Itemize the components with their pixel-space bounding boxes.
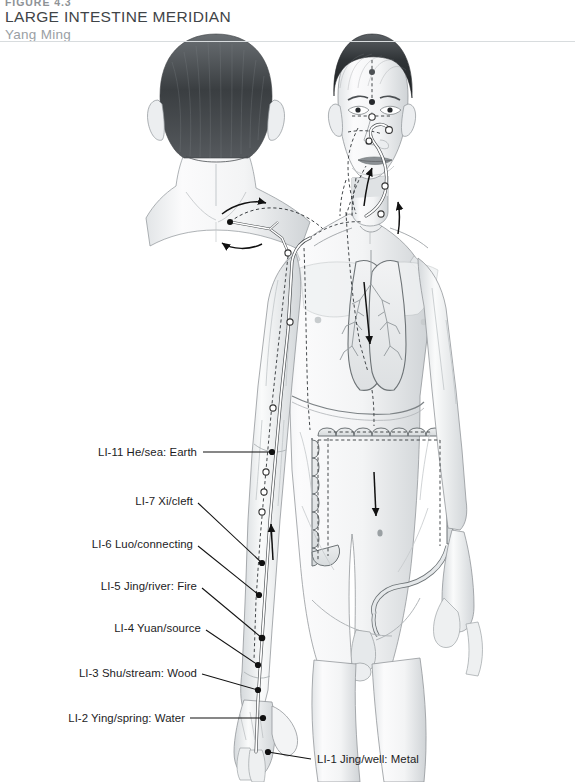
acupoint-midline [369, 114, 375, 120]
callout-label-li-11: LI-11 He/sea: Earth [98, 446, 197, 458]
callout-label-li-6: LI-6 Luo/connecting [92, 538, 193, 550]
acupoint-li-18 [382, 183, 388, 189]
flow-arrow-shoulder [398, 202, 400, 234]
header-rule [0, 41, 575, 42]
acupoint-li-17 [378, 211, 384, 217]
callout-label-li-5: LI-5 Jing/river: Fire [101, 580, 197, 592]
right-arm [418, 258, 467, 530]
callout-label-li-3: LI-3 Shu/stream: Wood [79, 667, 197, 679]
acupoint-li-10 [263, 469, 269, 475]
callout-label-li-2: LI-2 Ying/spring: Water [68, 712, 185, 724]
acupoint-li-19 [366, 138, 372, 144]
thumb [272, 706, 298, 756]
acupoint-li-9 [261, 489, 267, 495]
page-subtitle: Yang Ming [5, 27, 71, 42]
acupoint-li-13 [287, 319, 293, 325]
callout-label-li-7: LI-7 Xi/cleft [135, 495, 193, 507]
callout-label-li-4: LI-4 Yuan/source [114, 622, 201, 634]
page-title: LARGE INTESTINE MERIDIAN [5, 8, 231, 26]
figure-number: FIGURE 4.3 [5, 0, 72, 8]
flow-arrow-lower [222, 243, 262, 248]
acupoint-li-20 [386, 127, 393, 134]
head-posterior-inset [146, 34, 338, 256]
figure-page: FIGURE 4.3 LARGE INTESTINE MERIDIAN Yang… [0, 0, 575, 782]
callout-label-li-1: LI-1 Jing/well: Metal [317, 753, 419, 765]
anatomical-illustration [0, 0, 575, 782]
acupoint-glabella [369, 99, 375, 105]
acupoint-li-12 [270, 405, 276, 411]
acupoint-li-8 [259, 509, 265, 515]
acupoint-forehead [369, 69, 375, 75]
acupoint-gv14 [227, 219, 233, 225]
